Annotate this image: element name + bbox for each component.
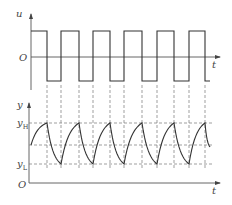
bottom-y-axis-label: y xyxy=(16,99,23,110)
square-wave xyxy=(31,31,210,81)
output-waveform xyxy=(31,123,210,164)
top-origin-label: O xyxy=(19,52,27,63)
edge-guides xyxy=(47,85,205,170)
bottom-origin-label: O xyxy=(18,179,26,190)
y-low-label: yL xyxy=(16,158,28,172)
top-x-axis-label: t xyxy=(212,59,217,70)
bottom-x-axis-label: t xyxy=(212,185,217,196)
y-high-label: yH xyxy=(16,117,29,131)
top-y-axis-label: u xyxy=(16,8,22,19)
waveform-diagram: u O t y O t yH yL xyxy=(0,0,232,205)
